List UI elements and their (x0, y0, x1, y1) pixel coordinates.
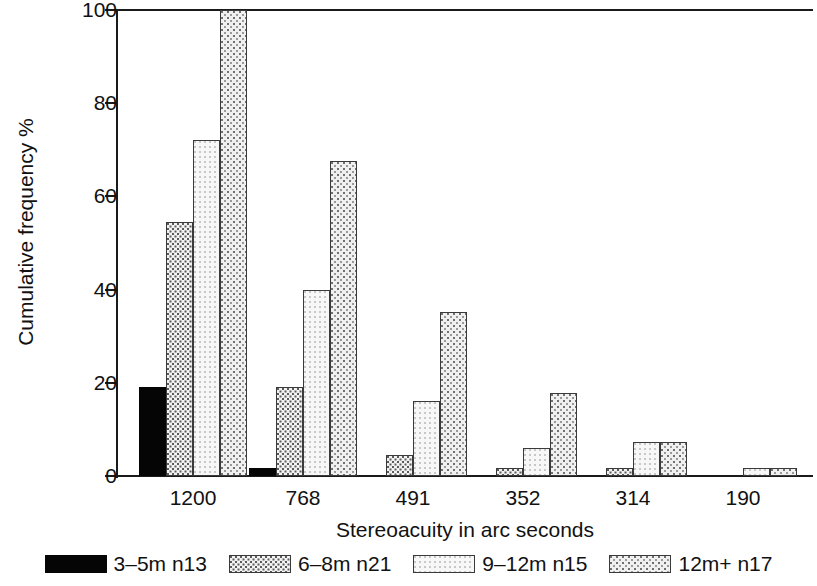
x-tick-label-768: 768 (243, 486, 363, 510)
bar-314-series-1 (606, 468, 633, 476)
bar-190-series-3 (770, 468, 797, 476)
legend-item-1: 6–8m n21 (229, 552, 391, 576)
x-tick-label-190: 190 (683, 486, 803, 510)
legend-label: 12m+ n17 (678, 552, 772, 576)
legend-label: 6–8m n21 (298, 552, 391, 576)
bar-768-series-0 (249, 468, 276, 476)
light-stipple-swatch (413, 555, 475, 573)
x-tick-label-352: 352 (463, 486, 583, 510)
y-tick-label: 0 (21, 465, 117, 486)
bar-768-series-2 (303, 290, 330, 476)
medium-stipple-swatch (609, 555, 671, 573)
bar-352-series-1 (496, 468, 523, 476)
y-axis-title: Cumulative frequency % (14, 22, 38, 442)
bar-352-series-2 (523, 448, 550, 476)
legend-label: 9–12m n15 (482, 552, 587, 576)
x-tick-label-314: 314 (573, 486, 693, 510)
bar-1200-series-0 (139, 387, 166, 476)
bar-491-series-3 (440, 312, 467, 476)
legend-label: 3–5m n13 (114, 552, 207, 576)
bar-1200-series-3 (220, 10, 247, 476)
bar-491-series-2 (413, 401, 440, 476)
bar-768-series-3 (330, 161, 357, 476)
bar-314-series-3 (660, 442, 687, 476)
x-axis-title: Stereoacuity in arc seconds (117, 518, 813, 542)
bar-768-series-1 (276, 387, 303, 476)
dense-stipple-swatch (229, 555, 291, 573)
bar-352-series-3 (550, 393, 577, 476)
legend-item-2: 9–12m n15 (413, 552, 587, 576)
bar-314-series-2 (633, 442, 660, 476)
y-tick-label: 100 (21, 0, 117, 20)
bar-1200-series-1 (166, 222, 193, 476)
bar-190-series-2 (743, 468, 770, 476)
bar-491-series-1 (386, 455, 413, 476)
x-tick-label-491: 491 (353, 486, 473, 510)
legend-item-3: 12m+ n17 (609, 552, 772, 576)
stereoacuity-cumulative-frequency-chart: 020406080100 Cumulative frequency % 1200… (0, 0, 817, 586)
plot-area (117, 10, 812, 476)
legend-item-0: 3–5m n13 (45, 552, 207, 576)
x-tick-label-1200: 1200 (133, 486, 253, 510)
chart-legend: 3–5m n136–8m n219–12m n1512m+ n17 (0, 552, 817, 576)
bar-1200-series-2 (193, 140, 220, 476)
solid-black-swatch (45, 555, 107, 573)
